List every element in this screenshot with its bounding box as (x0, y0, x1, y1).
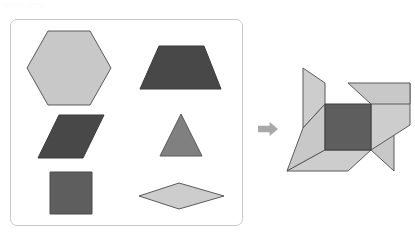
puzzle-canvas: www.cnsi (0, 0, 415, 239)
right-arrow-icon (258, 122, 278, 136)
watermark-text: www.cnsi (4, 0, 46, 10)
shape-square[interactable] (50, 172, 92, 214)
pinwheel-center-square[interactable] (325, 104, 371, 150)
assembled-pinwheel (287, 68, 410, 171)
pinwheel-blade-top-right[interactable] (348, 83, 410, 104)
right-arrow-icon (258, 122, 278, 136)
